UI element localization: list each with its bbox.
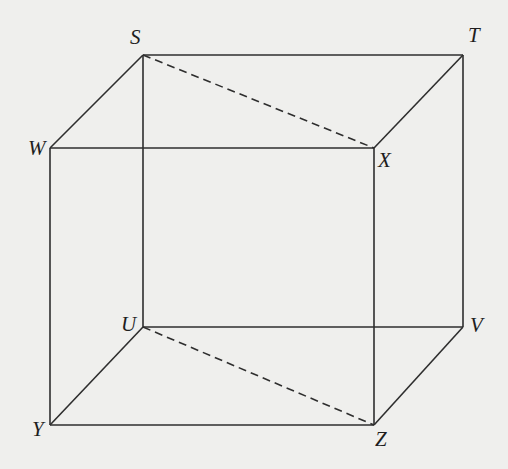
vertex-label-v: V [470,313,485,337]
edges-layer [50,55,463,425]
vertex-label-y: Y [32,417,46,441]
edge-SW [50,55,143,148]
labels-layer: STWXUVYZ [28,23,485,451]
vertex-label-x: X [377,148,392,172]
edge-TX [374,55,463,148]
prism-diagram: STWXUVYZ [0,0,508,469]
prism-wireframe: STWXUVYZ [0,0,508,469]
vertex-label-s: S [130,25,141,49]
edge-UY [50,327,143,425]
vertex-label-t: T [468,23,481,47]
vertex-label-z: Z [375,427,387,451]
vertex-label-u: U [121,312,138,336]
vertex-label-w: W [28,136,48,160]
edge-SX-dashed [143,55,374,148]
edge-VZ [374,327,463,425]
edge-UZ-dashed [143,327,374,425]
